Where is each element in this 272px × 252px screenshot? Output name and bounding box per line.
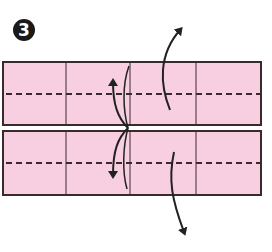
bottom-panel <box>3 131 261 195</box>
top-panel <box>3 62 261 125</box>
origami-fold-diagram <box>0 0 272 252</box>
